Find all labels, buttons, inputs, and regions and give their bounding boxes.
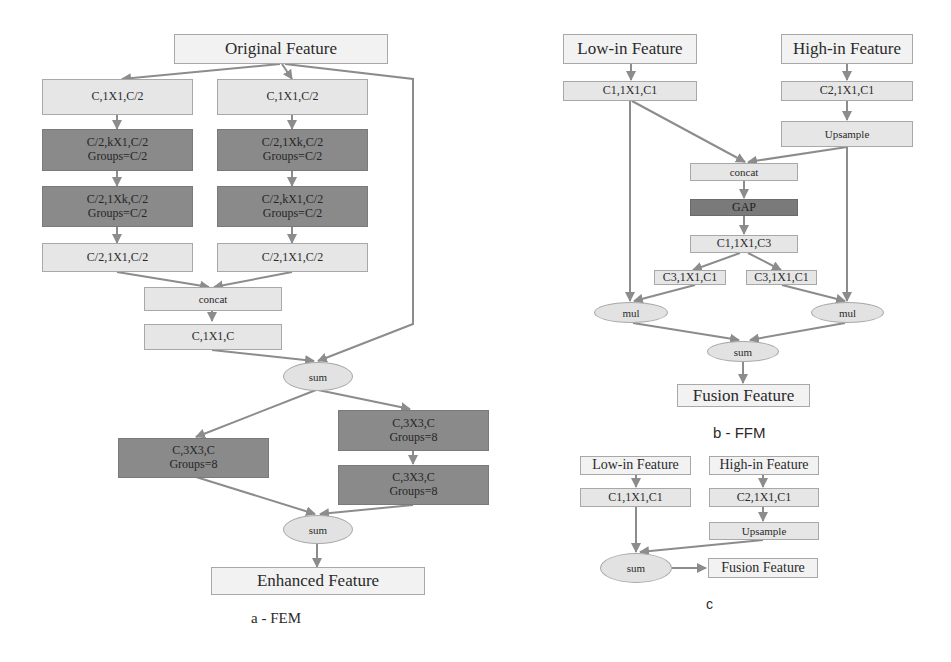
ffm-high-in-feature: High-in Feature	[781, 34, 913, 64]
groups-label: Groups=8	[169, 458, 217, 472]
ffm-high-conv: C2,1X1,C1	[781, 81, 913, 101]
label: mul	[622, 307, 639, 319]
label: mul	[839, 307, 856, 319]
label: Original Feature	[225, 39, 337, 59]
label: C2,1X1,C1	[737, 491, 792, 505]
fem-right-group-conv3x3-2: C,3X3,C Groups=8	[338, 465, 489, 505]
label: sum	[627, 562, 645, 574]
c-low-in-feature: Low-in Feature	[580, 456, 691, 475]
label: C,3X3,C	[392, 471, 435, 485]
label: C/2,1Xk,C/2	[87, 193, 148, 207]
ffm-excite-right: C3,1X1,C1	[746, 270, 817, 285]
label: C/2,1X1,C/2	[87, 251, 148, 265]
diagram-canvas: Original Feature C,1X1,C/2 C,1X1,C/2 C/2…	[0, 0, 951, 662]
groups-label: Groups=C/2	[263, 207, 322, 221]
ffm-fusion-feature: Fusion Feature	[677, 384, 810, 407]
caption-text: b - FFM	[713, 424, 766, 441]
ffm-excite-left: C3,1X1,C1	[654, 270, 726, 285]
groups-label: Groups=8	[389, 485, 437, 499]
fem-right-group-conv3x3-1: C,3X3,C Groups=8	[338, 410, 489, 451]
label: C/2,kX1,C/2	[262, 193, 323, 207]
fem-left-group-conv3x3: C,3X3,C Groups=8	[118, 438, 269, 478]
ffm-mul-right: mul	[811, 302, 884, 323]
label: Low-in Feature	[592, 457, 679, 473]
fem-left-depthwise-1xk: C/2,1Xk,C/2 Groups=C/2	[42, 186, 193, 227]
fem-right-depthwise-1xk: C/2,1Xk,C/2 Groups=C/2	[217, 129, 368, 171]
label: C3,1X1,C1	[754, 271, 809, 285]
c-high-in-feature: High-in Feature	[709, 456, 819, 475]
groups-label: Groups=C/2	[88, 207, 147, 221]
c-upsample: Upsample	[709, 522, 819, 540]
fem-original-feature: Original Feature	[174, 34, 388, 64]
label: C1,1X1,C1	[603, 84, 658, 98]
label: C1,1X1,C1	[608, 491, 663, 505]
fem-caption: a - FEM	[251, 610, 301, 627]
label: C/2,1X1,C/2	[262, 251, 323, 265]
fem-sum-1: sum	[283, 362, 353, 391]
fem-left-conv1x1: C,1X1,C/2	[42, 79, 193, 115]
groups-label: Groups=C/2	[88, 150, 147, 164]
caption-text: a - FEM	[251, 610, 301, 626]
ffm-concat: concat	[690, 163, 798, 181]
label: Upsample	[742, 525, 787, 538]
c-high-conv: C2,1X1,C1	[709, 488, 819, 507]
label: sum	[734, 346, 752, 358]
c-low-conv: C1,1X1,C1	[580, 488, 691, 507]
fem-left-pointwise: C/2,1X1,C/2	[42, 243, 193, 272]
c-sum: sum	[600, 553, 672, 583]
label: C,3X3,C	[392, 417, 435, 431]
ffm-sum: sum	[707, 341, 779, 362]
fem-right-conv1x1: C,1X1,C/2	[217, 79, 368, 115]
c-fusion-feature: Fusion Feature	[708, 558, 818, 578]
label: C,1X1,C/2	[266, 90, 318, 104]
label: concat	[199, 293, 228, 306]
label: C,1X1,C	[192, 330, 235, 344]
label: Fusion Feature	[721, 560, 805, 576]
label: C1,1X1,C3	[717, 237, 772, 251]
fem-sum-2: sum	[283, 515, 353, 544]
label: Enhanced Feature	[257, 571, 379, 591]
label: Low-in Feature	[577, 39, 682, 59]
fem-enhanced-feature: Enhanced Feature	[211, 567, 425, 595]
label: concat	[730, 166, 759, 179]
fem-concat: concat	[144, 287, 282, 311]
caption-text: c	[706, 596, 713, 612]
c-caption: c	[706, 596, 713, 612]
fem-right-pointwise: C/2,1X1,C/2	[217, 243, 368, 272]
label: sum	[309, 524, 327, 536]
fem-right-depthwise-kx1: C/2,kX1,C/2 Groups=C/2	[217, 186, 368, 227]
groups-label: Groups=C/2	[263, 150, 322, 164]
label: Upsample	[825, 128, 870, 141]
label: C/2,kX1,C/2	[87, 136, 148, 150]
ffm-squeeze-conv: C1,1X1,C3	[690, 235, 798, 253]
ffm-gap: GAP	[690, 199, 798, 216]
groups-label: Groups=8	[389, 431, 437, 445]
label: GAP	[732, 201, 756, 215]
label: C3,1X1,C1	[663, 271, 718, 285]
label: sum	[309, 371, 327, 383]
label: C2,1X1,C1	[820, 84, 875, 98]
label: High-in Feature	[719, 457, 808, 473]
label: C/2,1Xk,C/2	[262, 136, 323, 150]
ffm-low-conv: C1,1X1,C1	[563, 81, 697, 101]
ffm-caption: b - FFM	[713, 424, 766, 441]
label: High-in Feature	[793, 39, 901, 59]
fem-left-depthwise-kx1: C/2,kX1,C/2 Groups=C/2	[42, 129, 193, 171]
ffm-mul-left: mul	[594, 302, 668, 323]
ffm-low-in-feature: Low-in Feature	[563, 34, 697, 64]
label: C,1X1,C/2	[91, 90, 143, 104]
fem-merge-conv: C,1X1,C	[144, 324, 282, 350]
ffm-upsample: Upsample	[781, 121, 913, 147]
label: Fusion Feature	[693, 386, 795, 406]
label: C,3X3,C	[172, 444, 215, 458]
